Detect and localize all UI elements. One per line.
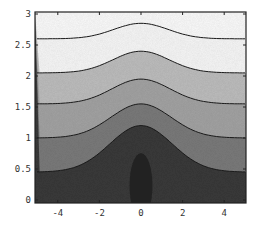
x-tick-label: -4 [52, 208, 63, 218]
y-tick-label: 0 [26, 195, 31, 205]
y-tick-label: 2 [26, 71, 31, 81]
x-tick-label: -2 [94, 208, 105, 218]
y-tick-label: 2.5 [15, 40, 31, 50]
x-tick-label: 0 [138, 208, 143, 218]
y-tick-label: 0.5 [15, 164, 31, 174]
y-tick-label: 3 [26, 9, 31, 19]
plot-area [35, 12, 246, 218]
contour-plot: -4-2024 00.511.522.53 [0, 0, 260, 229]
x-tick-label: 2 [180, 208, 185, 218]
y-tick-label: 1 [26, 133, 31, 143]
y-tick-label: 1.5 [15, 102, 31, 112]
x-tick-label: 4 [221, 208, 226, 218]
